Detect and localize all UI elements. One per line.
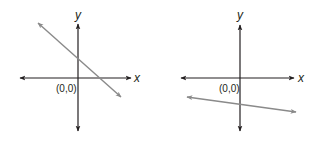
- right-plotted-line: [187, 97, 296, 112]
- right-x-axis-label: x: [297, 71, 305, 85]
- right-origin-label: (0,0): [219, 83, 240, 94]
- left-x-axis-label: x: [133, 71, 141, 85]
- left-plotted-line: [38, 23, 121, 97]
- left-y-axis-label: y: [74, 8, 82, 22]
- right-coordinate-plane: x y (0,0): [181, 8, 305, 131]
- left-origin-label: (0,0): [56, 83, 77, 94]
- diagram-canvas: x y (0,0) x y (0,0): [0, 0, 322, 144]
- left-coordinate-plane: x y (0,0): [20, 8, 141, 131]
- right-y-axis-label: y: [236, 8, 244, 22]
